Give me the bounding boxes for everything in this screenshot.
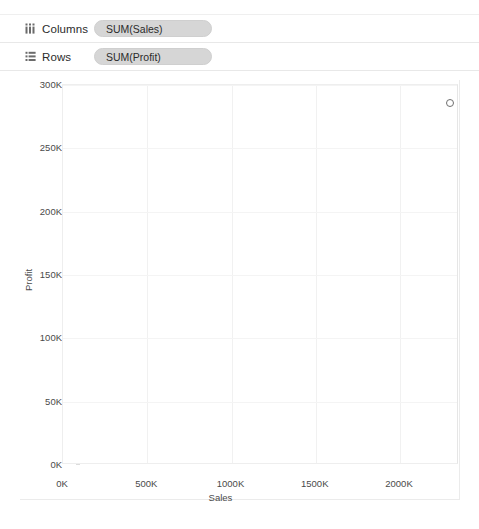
horizontal-gridline	[63, 85, 457, 86]
x-tick-label: 1500K	[301, 478, 328, 489]
data-point-marker[interactable]	[446, 99, 454, 107]
y-tick-label: 50K	[22, 395, 62, 406]
horizontal-gridline	[63, 402, 457, 403]
vertical-gridline	[232, 85, 233, 463]
horizontal-gridline	[63, 338, 457, 339]
vertical-gridline	[400, 85, 401, 463]
y-tick-mark	[76, 464, 80, 465]
x-axis-title: Sales	[0, 492, 479, 503]
x-tick-label: 2000K	[385, 478, 412, 489]
vertical-gridline	[147, 85, 148, 463]
horizontal-gridline	[63, 275, 457, 276]
x-tick-label: 1000K	[217, 478, 244, 489]
y-tick-label: 100K	[22, 332, 62, 343]
x-tick-label: 0K	[56, 478, 68, 489]
y-tick-label: 300K	[22, 79, 62, 90]
y-tick-label: 150K	[22, 269, 62, 280]
horizontal-gridline	[63, 148, 457, 149]
pill-sum-sales[interactable]: SUM(Sales)	[94, 20, 212, 37]
horizontal-gridline	[63, 212, 457, 213]
y-tick-label: 0K	[22, 459, 62, 470]
x-axis-tick-labels: 0K500K1000K1500K2000K	[0, 478, 479, 492]
rows-shelf[interactable]: Rows SUM(Profit)	[0, 43, 479, 71]
pill-sum-profit[interactable]: SUM(Profit)	[94, 48, 212, 65]
x-axis-title-text: Sales	[209, 492, 233, 503]
shelf-area: Columns SUM(Sales) Rows SUM(Profit)	[0, 14, 479, 71]
columns-shelf[interactable]: Columns SUM(Sales)	[0, 14, 479, 43]
y-tick-label: 250K	[22, 142, 62, 153]
y-axis-tick-labels: 0K50K100K150K200K250K300K	[18, 0, 62, 529]
vertical-gridline	[316, 85, 317, 463]
x-tick-label: 500K	[135, 478, 157, 489]
y-tick-label: 200K	[22, 205, 62, 216]
plot-area[interactable]	[62, 84, 458, 464]
